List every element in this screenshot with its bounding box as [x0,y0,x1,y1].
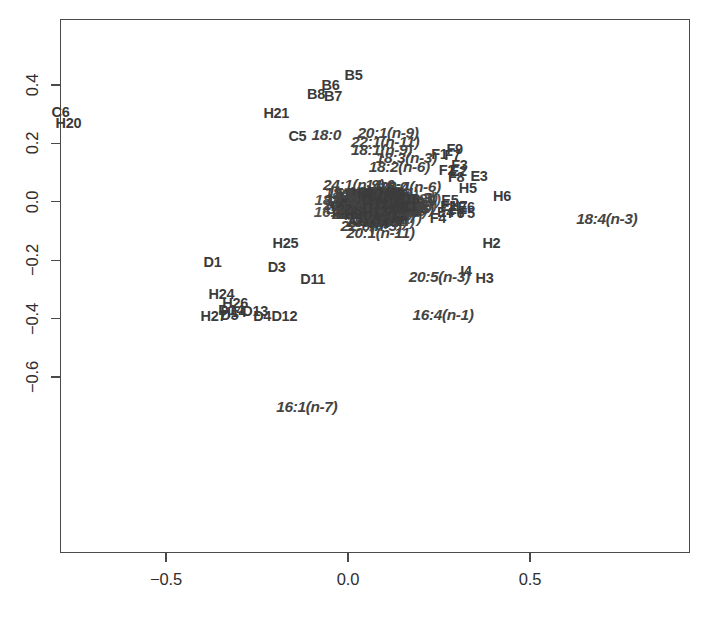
dense-core-label: H19 [379,186,405,201]
sample-label: C5 [288,128,306,143]
sample-label: H25 [273,235,299,250]
y-axis-tick-label: −0.4 [23,303,42,335]
variable-label: 16:4(n-1) [413,307,474,323]
sample-label: H5 [459,181,477,196]
y-axis-tick-label: 0.4 [23,74,42,96]
sample-label: D5 [220,308,238,323]
variable-label: 18:4(n-3) [576,212,637,228]
y-axis-tick [51,318,60,319]
sample-label: F5 [458,206,474,221]
sample-label: B5 [344,68,362,83]
x-axis-tick-label: 0.5 [519,570,541,589]
variable-label: 20:5(n-3) [409,270,470,286]
y-axis-tick [51,143,60,144]
y-axis-tick-label: 0.0 [23,191,42,213]
sample-label: D12 [271,309,297,324]
y-axis-tick-label: −0.2 [23,244,42,276]
sample-label: D11 [300,272,325,287]
x-axis-tick [529,553,530,562]
x-axis-tick-label: −0.5 [150,570,182,589]
plot-frame [60,19,690,553]
x-axis-tick [165,553,166,562]
y-axis-tick-label: 0.2 [23,132,42,154]
sample-label: H3 [476,271,494,286]
dense-core-label: H9 [344,207,362,222]
sample-label: H21 [263,106,289,121]
sample-label: D1 [204,254,222,269]
y-axis-tick-label: −0.6 [23,361,42,393]
variable-label: 18:0 [311,127,340,143]
variable-label: 16:1(n-7) [276,400,337,416]
y-axis-tick [51,376,60,377]
sample-label: B7 [324,89,342,104]
x-axis-tick-label: 0.0 [337,570,359,589]
y-axis-tick [51,260,60,261]
x-axis-tick [347,553,348,562]
ordination-biplot-figure: −0.50.00.50.40.20.0−0.2−0.4−0.6 B5B6B8B7… [0,0,708,618]
y-axis-tick [51,201,60,202]
sample-label: D4 [253,308,271,323]
y-axis-tick [51,84,60,85]
sample-label: H20 [56,116,82,131]
sample-label: H2 [482,236,500,251]
sample-label: B8 [307,87,325,102]
sample-label: D3 [268,260,286,275]
sample-label: H6 [493,189,511,204]
variable-label: 18:2(n-6) [369,160,430,176]
